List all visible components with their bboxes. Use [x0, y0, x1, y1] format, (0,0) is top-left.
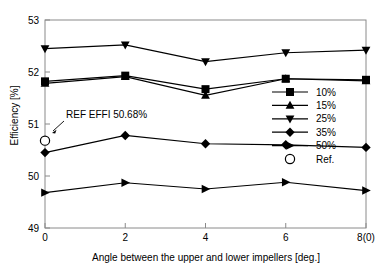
marker-circle-open [40, 136, 49, 145]
x-tick-label: 6 [283, 232, 289, 243]
x-tick-label: 0 [42, 232, 48, 243]
x-tick-label: 8(0) [357, 232, 375, 243]
chart-figure: 4950515253 02468(0) REF EFFI 50.68% 10%1… [0, 0, 392, 277]
legend-label: 50% [316, 140, 336, 151]
marker-square [286, 88, 294, 96]
marker-circle-open [285, 154, 294, 163]
x-tick-label: 4 [203, 232, 209, 243]
x-tick-label: 2 [122, 232, 128, 243]
legend-label: 10% [316, 87, 336, 98]
y-tick-label: 52 [28, 67, 40, 78]
legend-label: Ref. [316, 154, 334, 165]
reference-annotation-label: REF EFFI 50.68% [66, 109, 147, 120]
legend-label: 15% [316, 100, 336, 111]
y-tick-label: 53 [28, 15, 40, 26]
y-axis-label: Efficiency [%] [9, 56, 20, 176]
chart-plot-area: 4950515253 02468(0) REF EFFI 50.68% 10%1… [0, 0, 392, 277]
legend-label: 35% [316, 127, 336, 138]
legend-label: 25% [316, 113, 336, 124]
reference-point-layer [40, 136, 49, 145]
y-tick-label: 50 [28, 171, 40, 182]
x-axis-label: Angle between the upper and lower impell… [45, 252, 367, 263]
y-tick-label: 49 [28, 223, 40, 234]
y-tick-label: 51 [28, 119, 40, 130]
